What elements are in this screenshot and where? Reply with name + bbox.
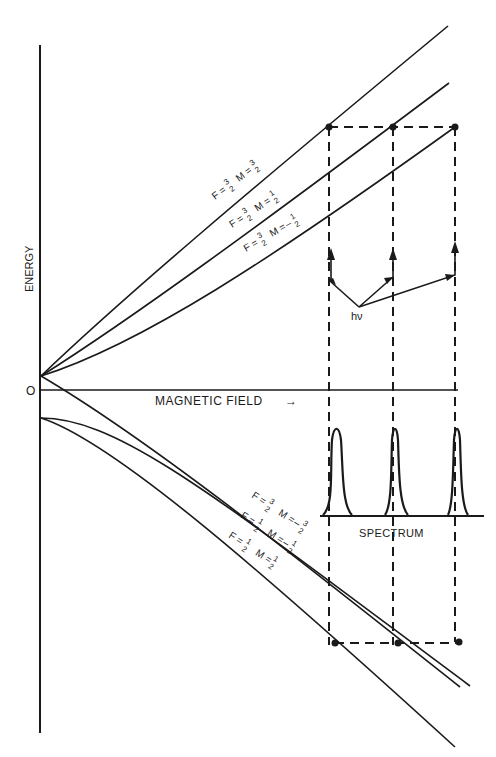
svg-text:F =: F = [227,212,245,229]
energy-axis-label: ENERGY [23,245,35,292]
upper-dashed-connector [329,127,459,645]
spectrum-peaks [323,429,468,515]
svg-text:2: 2 [245,213,254,223]
svg-text:F =: F = [242,237,260,254]
svg-text:2: 2 [272,196,281,206]
svg-text:M =: M = [252,195,272,214]
svg-text:2: 2 [228,184,237,194]
spectrum-label: SPECTRUM [359,527,424,539]
svg-text:F =: F = [239,509,257,526]
magnetic-field-label: MAGNETIC FIELD [155,394,263,408]
upper-level-line-1 [41,26,448,376]
photon-label: hν [351,310,363,322]
svg-text:2: 2 [296,526,305,536]
svg-text:F =: F = [227,529,245,546]
svg-text:2: 2 [263,504,272,514]
svg-text:2: 2 [240,544,249,554]
origin-label: O [26,384,35,398]
svg-text:F =: F = [250,489,268,506]
upper-level-label-1: F = 3 2 M = 3 2 [208,157,263,204]
svg-text:2: 2 [260,238,269,248]
magnetic-field-arrow: → [285,394,297,408]
svg-text:2: 2 [293,219,302,229]
svg-text:F =: F = [210,184,229,202]
zeeman-diagram: ENERGY O MAGNETIC FIELD → hν SPECTRUM F … [0,0,496,757]
upper-level-line-2 [41,83,449,376]
svg-text:2: 2 [253,165,262,175]
svg-text:M =: M = [234,164,254,183]
